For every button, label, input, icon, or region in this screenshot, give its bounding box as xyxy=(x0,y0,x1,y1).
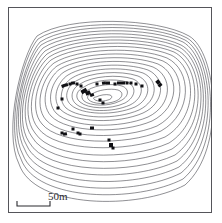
contour-map-figure: 50m xyxy=(0,0,222,223)
contour-line xyxy=(61,69,154,117)
contour-lines-group xyxy=(13,21,213,201)
site-marker xyxy=(90,127,94,130)
site-marker xyxy=(80,85,83,88)
site-marker xyxy=(72,128,75,131)
site-marker xyxy=(76,83,79,86)
site-marker xyxy=(106,82,110,85)
contour-line xyxy=(94,95,112,101)
site-marker xyxy=(61,98,64,101)
site-marker xyxy=(99,99,102,102)
contour-line xyxy=(82,85,128,106)
contour-line xyxy=(67,73,148,114)
site-marker xyxy=(121,82,125,85)
site-marker xyxy=(71,81,75,85)
scale-bar-label: 50m xyxy=(48,190,68,203)
contour-line xyxy=(20,34,203,175)
site-markers-group xyxy=(57,79,163,149)
contour-line xyxy=(18,31,205,182)
scale-bar: 50m xyxy=(14,190,104,212)
site-marker xyxy=(64,83,69,87)
site-marker xyxy=(57,107,60,110)
site-marker xyxy=(114,83,117,86)
site-marker xyxy=(112,147,115,150)
site-marker xyxy=(102,102,105,105)
site-marker xyxy=(130,82,133,85)
site-marker xyxy=(141,85,144,88)
site-marker xyxy=(126,82,129,85)
site-marker xyxy=(135,83,138,86)
contour-line xyxy=(28,43,195,155)
site-marker xyxy=(117,82,121,85)
site-marker xyxy=(108,139,111,142)
site-marker xyxy=(79,133,82,136)
contour-line xyxy=(36,50,186,141)
contour-line xyxy=(88,89,122,103)
contour-line xyxy=(56,65,161,120)
site-marker xyxy=(96,83,99,86)
site-marker xyxy=(102,81,106,85)
site-marker xyxy=(109,143,113,147)
